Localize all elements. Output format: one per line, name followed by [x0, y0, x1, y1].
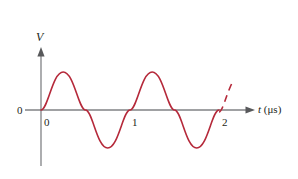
- voltage-vs-time-figure: V t (μs) 0 0 1 2: [0, 0, 298, 179]
- origin-left-label: 0: [17, 105, 23, 116]
- y-axis-arrow-icon: [37, 47, 44, 57]
- x-axis-units-label: (μs): [264, 103, 282, 115]
- y-axis-title: V: [36, 31, 43, 43]
- x-tick-label-1: 1: [132, 117, 138, 128]
- x-axis-arrow-icon: [246, 106, 256, 113]
- x-tick-label-2: 2: [222, 117, 228, 128]
- plot-canvas: [0, 0, 298, 179]
- sine-wave-dashed-extension: [219, 82, 233, 112]
- x-axis-title: t (μs): [258, 104, 281, 115]
- x-axis-variable-label: t: [258, 103, 261, 115]
- x-tick-label-0: 0: [44, 117, 50, 128]
